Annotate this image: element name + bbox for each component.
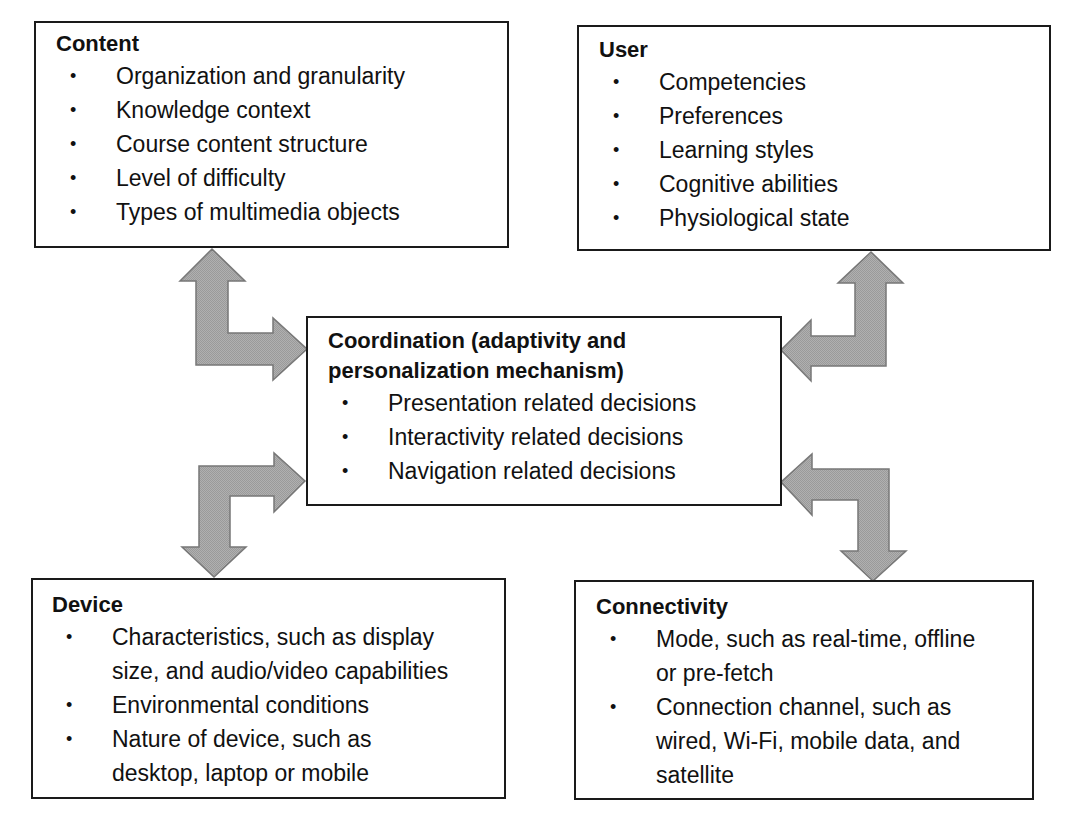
user-title: User xyxy=(599,35,1049,65)
bullet-icon: • xyxy=(613,65,619,99)
coordination-title: Coordination (adaptivity and personaliza… xyxy=(328,326,780,386)
coordination-list: •Presentation related decisions •Interac… xyxy=(328,386,780,488)
device-title: Device xyxy=(52,590,504,620)
list-item: •Nature of device, such asdesktop, lapto… xyxy=(52,722,504,790)
bullet-icon: • xyxy=(610,622,616,656)
content-title: Content xyxy=(56,29,507,59)
bullet-icon: • xyxy=(342,386,348,420)
connectivity-title: Connectivity xyxy=(596,592,1032,622)
device-box: Device •Characteristics, such as display… xyxy=(31,578,506,799)
list-item: •Environmental conditions xyxy=(52,688,504,722)
list-item: •Navigation related decisions xyxy=(328,454,780,488)
user-list: •Competencies •Preferences •Learning sty… xyxy=(599,65,1049,235)
list-item: •Level of difficulty xyxy=(56,161,507,195)
user-box: User •Competencies •Preferences •Learnin… xyxy=(577,25,1051,251)
list-item: •Course content structure xyxy=(56,127,507,161)
device-list: •Characteristics, such as displaysize, a… xyxy=(52,620,504,790)
bullet-icon: • xyxy=(70,93,76,127)
bullet-icon: • xyxy=(66,620,72,654)
bullet-icon: • xyxy=(70,161,76,195)
list-item: •Presentation related decisions xyxy=(328,386,780,420)
bullet-icon: • xyxy=(66,722,72,756)
bullet-icon: • xyxy=(610,690,616,724)
list-item: •Mode, such as real-time, offlineor pre-… xyxy=(596,622,1032,690)
bullet-icon: • xyxy=(66,688,72,722)
bullet-icon: • xyxy=(70,127,76,161)
list-item: •Organization and granularity xyxy=(56,59,507,93)
list-item: •Knowledge context xyxy=(56,93,507,127)
list-item: •Competencies xyxy=(599,65,1049,99)
content-list: •Organization and granularity •Knowledge… xyxy=(56,59,507,229)
bullet-icon: • xyxy=(70,59,76,93)
list-item: •Types of multimedia objects xyxy=(56,195,507,229)
bullet-icon: • xyxy=(613,133,619,167)
bullet-icon: • xyxy=(70,195,76,229)
list-item: •Connection channel, such aswired, Wi-Fi… xyxy=(596,690,1032,792)
list-item: •Preferences xyxy=(599,99,1049,133)
content-box: Content •Organization and granularity •K… xyxy=(34,21,509,248)
content-coordination-arrow xyxy=(180,249,307,380)
bullet-icon: • xyxy=(342,420,348,454)
list-item: •Learning styles xyxy=(599,133,1049,167)
list-item: •Interactivity related decisions xyxy=(328,420,780,454)
connectivity-box: Connectivity •Mode, such as real-time, o… xyxy=(574,580,1034,800)
user-coordination-arrow xyxy=(781,252,903,381)
bullet-icon: • xyxy=(613,201,619,235)
coordination-box: Coordination (adaptivity and personaliza… xyxy=(306,316,782,506)
list-item: •Characteristics, such as displaysize, a… xyxy=(52,620,504,688)
connectivity-coordination-arrow xyxy=(781,454,906,581)
list-item: •Cognitive abilities xyxy=(599,167,1049,201)
list-item: •Physiological state xyxy=(599,201,1049,235)
connectivity-list: •Mode, such as real-time, offlineor pre-… xyxy=(596,622,1032,792)
bullet-icon: • xyxy=(613,167,619,201)
bullet-icon: • xyxy=(613,99,619,133)
bullet-icon: • xyxy=(342,454,348,488)
device-coordination-arrow xyxy=(182,453,305,577)
